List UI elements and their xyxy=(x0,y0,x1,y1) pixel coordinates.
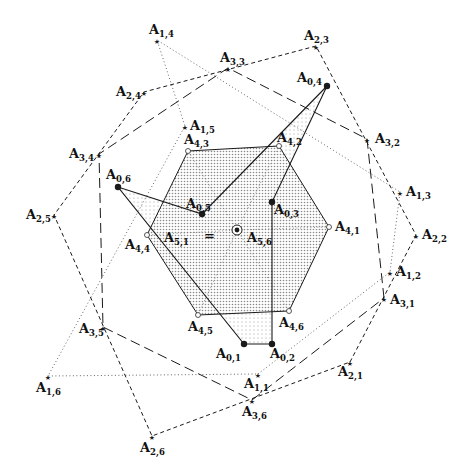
center-dot-icon xyxy=(235,228,240,233)
point-a0-6-dot-icon xyxy=(115,184,121,190)
point-a4-3-circle-icon xyxy=(186,149,191,154)
point-a2-4-star-icon: ★ xyxy=(141,90,147,98)
label-a4-5: A4,5 xyxy=(187,319,213,337)
point-a3-1-star-icon: ★ xyxy=(381,296,387,304)
label-a1-6: A1,6 xyxy=(35,380,61,398)
label-a2-5: A2,5 xyxy=(25,207,51,225)
point-a4-5-circle-icon xyxy=(196,313,201,318)
point-a1-2-star-icon: ★ xyxy=(387,270,393,278)
label-a0-1: A0,1 xyxy=(215,346,241,364)
label-extra-1: = xyxy=(204,228,215,243)
point-a4-1-circle-icon xyxy=(327,225,332,230)
label-a3-4: A3,4 xyxy=(68,146,94,164)
label-a3-1: A3,1 xyxy=(389,292,415,310)
point-a1-3-star-icon: ★ xyxy=(397,190,403,198)
point-a2-2-star-icon: ★ xyxy=(413,233,419,241)
label-a0-4: A0,4 xyxy=(296,70,322,88)
label-a1-2: A1,2 xyxy=(395,264,421,282)
label-a2-6: A2,6 xyxy=(139,440,165,458)
point-a1-1-star-icon: ★ xyxy=(255,372,261,380)
point-a4-4-circle-icon xyxy=(145,233,150,238)
label-a4-1: A4,1 xyxy=(334,219,360,237)
point-a2-5-star-icon: ★ xyxy=(51,213,57,221)
label-a4-4: A4,4 xyxy=(124,237,150,255)
polygon-diagram: ★★★★★★★★★★★★★★★★★★ A0,1A0,2A0,3A0,4A0,5A… xyxy=(0,0,467,473)
point-a3-4-star-icon: ★ xyxy=(96,152,102,160)
label-a0-6: A0,6 xyxy=(105,167,131,185)
diagram-canvas: ★★★★★★★★★★★★★★★★★★ A0,1A0,2A0,3A0,4A0,5A… xyxy=(0,0,467,473)
point-a1-5-star-icon: ★ xyxy=(182,124,188,132)
label-a2-4: A2,4 xyxy=(115,84,141,102)
label-a1-4: A1,4 xyxy=(148,22,174,40)
point-a3-2-star-icon: ★ xyxy=(364,137,370,145)
label-a0-2: A0,2 xyxy=(269,346,295,364)
label-a3-2: A3,2 xyxy=(374,131,400,149)
label-a2-2: A2,2 xyxy=(421,227,447,245)
label-a1-3: A1,3 xyxy=(405,184,431,202)
label-a4-6: A4,6 xyxy=(278,315,304,333)
point-a4-6-circle-icon xyxy=(287,309,292,314)
label-a3-6: A3,6 xyxy=(241,404,267,422)
label-a2-3: A2,3 xyxy=(303,28,329,46)
label-a3-3: A3,3 xyxy=(219,50,245,68)
point-a0-4-dot-icon xyxy=(324,83,330,89)
point-a0-1-dot-icon xyxy=(241,341,247,347)
